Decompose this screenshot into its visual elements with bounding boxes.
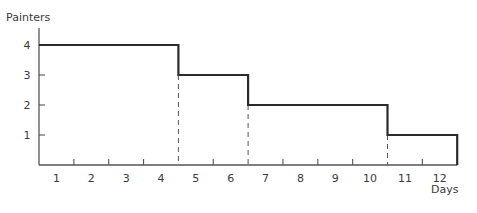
x-tick-label: 10	[363, 172, 377, 185]
x-tick-label: 1	[53, 172, 60, 185]
x-tick-label: 7	[262, 172, 269, 185]
x-axis-label: Days	[431, 183, 459, 196]
y-tick-label: 3	[24, 69, 31, 82]
y-axis: 1234	[24, 28, 46, 165]
x-tick-label: 8	[297, 172, 304, 185]
step-line	[39, 45, 457, 165]
x-tick-label: 4	[157, 172, 164, 185]
x-tick-label: 6	[227, 172, 234, 185]
x-tick-label: 11	[398, 172, 412, 185]
y-tick-label: 1	[24, 129, 31, 142]
x-tick-label: 9	[332, 172, 339, 185]
y-tick-label: 4	[24, 39, 31, 52]
x-tick-label: 2	[88, 172, 95, 185]
y-tick-label: 2	[24, 99, 31, 112]
x-tick-label: 3	[123, 172, 130, 185]
x-tick-label: 5	[192, 172, 199, 185]
y-axis-label: Painters	[6, 11, 51, 24]
resource-step-chart: Painters 1234 123456789101112 Days	[0, 0, 477, 213]
drop-lines	[178, 75, 387, 165]
